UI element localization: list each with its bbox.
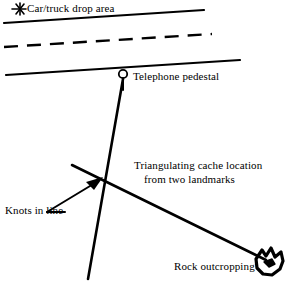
label-triangulating-line-2: from two landmarks bbox=[144, 173, 235, 186]
diagram-canvas bbox=[0, 0, 291, 288]
rock-blob-icon bbox=[256, 248, 283, 275]
label-rock-outcropping: Rock outcropping bbox=[174, 260, 255, 273]
asterisk-star-icon bbox=[12, 3, 26, 15]
label-telephone-pedestal: Telephone pedestal bbox=[133, 70, 219, 83]
road-center-dashed-line bbox=[4, 34, 212, 47]
label-knots-in-line: Knots in line bbox=[5, 204, 63, 217]
label-triangulating-line-1: Triangulating cache location bbox=[134, 159, 262, 172]
sight-line-telephone bbox=[88, 79, 123, 279]
triangulating-cache-diagram: Car/truck drop area Telephone pedestal T… bbox=[0, 0, 291, 288]
label-car-truck-drop-area: Car/truck drop area bbox=[27, 2, 114, 15]
